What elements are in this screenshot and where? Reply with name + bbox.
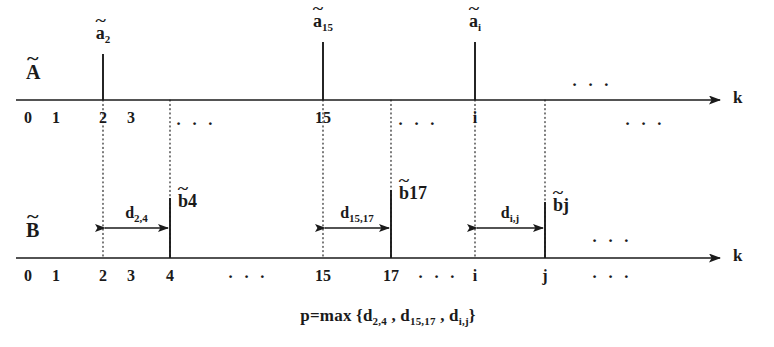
tick-label-b-3: 3 <box>127 268 135 284</box>
impulse-label-b-4: ~b4 <box>178 192 197 210</box>
tick-label-a-3: 3 <box>127 110 135 126</box>
tick-label-a-2: 2 <box>99 110 107 126</box>
tick-label-a-0: 0 <box>24 110 32 126</box>
distance-24-label: d2,4 <box>125 205 148 224</box>
tick-label-a-i: i <box>473 110 477 126</box>
ellipsis-b-2: · · · <box>592 268 633 285</box>
diagram-vector-layer <box>0 0 774 347</box>
impulse-label-a-i: ~ai <box>469 12 481 33</box>
axis-name-b: ~B <box>26 220 40 240</box>
figure-canvas: ~A k ~B k p=max {d2,4 , d15,17 , di,j} 0… <box>0 0 774 347</box>
tick-label-a-15: 15 <box>315 110 331 126</box>
tick-label-b-2: 2 <box>99 268 107 284</box>
vector-root <box>16 42 720 258</box>
impulse-label-a-15: ~a15 <box>313 12 333 33</box>
ellipsis-a-0: · · · <box>176 115 217 132</box>
ellipsis-a-3: · · · <box>625 115 666 132</box>
tick-label-b-1: 1 <box>52 268 60 284</box>
tick-label-b-15: 15 <box>315 268 331 284</box>
ellipsis-b-3: · · · <box>592 232 633 249</box>
axis-b-variable-k: k <box>733 247 742 264</box>
distance-1517-label: d15,17 <box>340 205 374 224</box>
tick-label-b-i: i <box>473 268 477 284</box>
tick-label-b-j: j <box>542 268 547 284</box>
tick-label-b-4: 4 <box>166 268 174 284</box>
ellipsis-a-1: · · · <box>572 76 613 93</box>
impulse-label-a-2: ~a2 <box>96 24 111 45</box>
ellipsis-a-2: · · · <box>398 115 439 132</box>
impulse-label-b-17: ~b17 <box>399 184 427 202</box>
tick-label-b-0: 0 <box>24 268 32 284</box>
ellipsis-b-1: · · · <box>418 268 459 285</box>
axis-a-variable-k: k <box>733 89 742 106</box>
tick-label-b-17: 17 <box>383 268 399 284</box>
ellipsis-b-0: · · · <box>228 268 269 285</box>
axis-name-a: ~A <box>26 62 41 82</box>
impulse-label-b-j: ~bj <box>553 196 569 214</box>
distance-ij-label: di,j <box>501 205 519 224</box>
tick-label-a-1: 1 <box>52 110 60 126</box>
formula-p-max: p=max {d2,4 , d15,17 , di,j} <box>300 307 475 327</box>
